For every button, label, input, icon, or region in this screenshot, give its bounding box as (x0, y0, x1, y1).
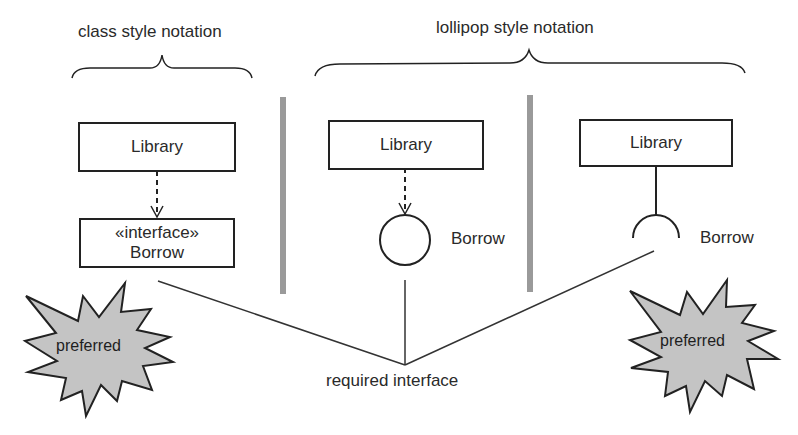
separator-left (280, 97, 286, 294)
preferred-badge-left: preferred (56, 337, 121, 355)
preferred-badge-right: preferred (660, 332, 725, 350)
interface-stereotype: «interface» (115, 223, 199, 243)
separator-right (527, 95, 533, 292)
class-library-box: Library (78, 122, 236, 172)
lollipop-style-brace (315, 50, 745, 76)
class-style-brace (72, 55, 252, 78)
interface-borrow-box: «interface» Borrow (79, 218, 235, 268)
interface-name: Borrow (130, 243, 184, 263)
lollipop-library-box: Library (328, 120, 484, 170)
ball-interface-icon (380, 215, 430, 265)
required-interface-label: required interface (326, 371, 458, 391)
class-library-label: Library (131, 137, 183, 157)
class-style-title: class style notation (78, 22, 222, 42)
ball-interface-label: Borrow (451, 229, 505, 249)
lollipop-library-label: Library (380, 135, 432, 155)
socket-interface-icon (633, 215, 679, 238)
socket-library-label: Library (630, 133, 682, 153)
socket-interface-label: Borrow (700, 228, 754, 248)
lollipop-style-title: lollipop style notation (436, 18, 594, 38)
socket-library-box: Library (579, 119, 733, 167)
